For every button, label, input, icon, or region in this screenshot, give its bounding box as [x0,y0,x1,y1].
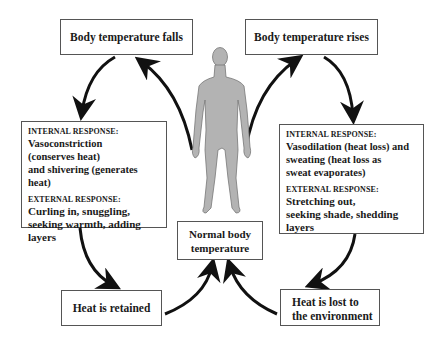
normal-label-line: Normal body [189,227,251,241]
body-temperature-falls-label: Body temperature falls [70,30,183,44]
heat-response-box: INTERNAL RESPONSE: Vasodilation (heat lo… [279,124,424,234]
internal-response-line: Vasoconstriction [28,137,160,150]
external-response-line: Stretching out, [286,195,417,208]
body-temperature-rises-box: Body temperature rises [245,19,378,55]
external-response-line: seeking shade, shedding layers [286,208,417,234]
arrow-right-response-to-lost [313,234,355,284]
normal-label-line: temperature [191,241,249,255]
external-response-header: EXTERNAL RESPONSE: [286,184,417,195]
heat-lost-line: the environment [292,309,379,323]
arrow-lost-to-normal [230,266,277,314]
internal-response-header: INTERNAL RESPONSE: [286,129,417,140]
heat-lost-line: Heat is lost to [292,295,379,309]
internal-response-line: sweating (heat loss as [286,153,417,166]
arrow-falls-to-left-response [82,57,115,112]
human-body-silhouette-icon [192,48,250,214]
internal-response-header: INTERNAL RESPONSE: [28,126,160,137]
internal-response-line: (conserves heat) [28,150,160,163]
cold-response-box: INTERNAL RESPONSE: Vasoconstriction (con… [21,121,167,228]
arrow-rises-to-right-response [324,57,353,116]
body-temperature-falls-box: Body temperature falls [60,19,193,55]
external-response-line: Curling in, snuggling, [28,205,160,218]
heat-retained-label: Heat is retained [73,301,151,315]
external-response-header: EXTERNAL RESPONSE: [28,194,160,205]
arrow-retained-to-normal [165,266,212,314]
normal-body-temperature-box: Normal body temperature [177,221,263,260]
internal-response-line: and shivering (generates heat) [28,163,160,189]
body-temperature-rises-label: Body temperature rises [254,30,369,44]
internal-response-line: sweat evaporates) [286,166,417,179]
heat-retained-box: Heat is retained [61,290,162,326]
external-response-line: seeking warmth, adding layers [28,218,160,244]
heat-lost-box: Heat is lost to the environment [280,289,380,326]
internal-response-line: Vasodilation (heat loss) and [286,140,417,153]
